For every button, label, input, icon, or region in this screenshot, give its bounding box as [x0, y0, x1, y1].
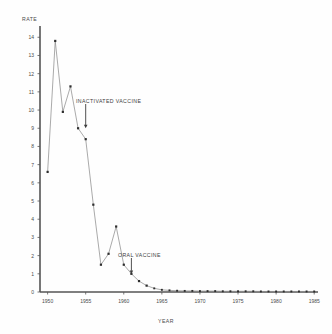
data-series — [47, 40, 316, 293]
chart-canvas — [0, 0, 332, 334]
axes — [38, 26, 319, 295]
annotation-oral-vaccine: ORAL VACCINE — [118, 252, 161, 258]
annotation-inactivated-vaccine: INACTIVATED VACCINE — [76, 98, 141, 104]
polio-rate-chart: RATE YEAR 01234567891011121314 195019551… — [0, 0, 332, 334]
